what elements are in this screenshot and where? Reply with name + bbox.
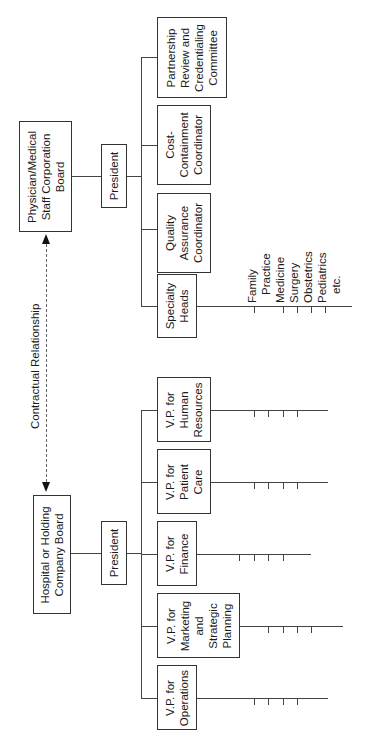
connector-line (72, 176, 101, 177)
tick (311, 626, 312, 633)
tick (254, 410, 255, 417)
vp-finance-box: V.P. for Finance (157, 521, 197, 586)
tick (268, 410, 269, 417)
hospital-president-box: President (101, 521, 127, 585)
quality-assurance-label: Quality Assurance Coordinator (163, 203, 205, 263)
hospital-board-label: Hospital or Holding Company Board (38, 506, 66, 603)
connector-line (127, 553, 142, 554)
cost-containment-label: Cost- Containment Coordinator (163, 112, 205, 177)
hospital-president-label: President (107, 529, 121, 578)
partnership-committee-box: Partnership Review and Credentialing Com… (157, 17, 227, 98)
tick (254, 306, 255, 313)
specialty-etc: etc. (329, 275, 343, 294)
vp-patient-care-box: V.P. for Patient Care (157, 449, 211, 514)
arrow-up-icon (42, 234, 50, 244)
vp-line (197, 698, 328, 699)
tick (297, 698, 298, 705)
physician-spine-line (141, 57, 142, 306)
connector-line (141, 306, 157, 307)
specialty-obstetrics: Obstetrics (301, 251, 315, 303)
physician-board-label: Physician/Medical Staff Corporation Boar… (25, 130, 67, 222)
connector-line (141, 626, 157, 627)
hospital-board-box: Hospital or Holding Company Board (33, 495, 71, 614)
vp-line (211, 482, 328, 483)
tick (254, 482, 255, 489)
connector-line (127, 176, 142, 177)
tick (239, 554, 240, 561)
tick (297, 306, 298, 313)
connector-line (141, 698, 157, 699)
specialty-pediatrics: Pediatrics (315, 253, 329, 304)
vp-marketing-box: V.P. for Marketing and Strategic Plannin… (157, 593, 240, 658)
tick (268, 626, 269, 633)
vp-operations-box: V.P. for Operations (157, 665, 197, 730)
contractual-relationship-label: Contractual Relationship (28, 304, 42, 429)
tick (283, 482, 284, 489)
vp-line (211, 410, 328, 411)
connector-line (141, 145, 157, 146)
physician-board-box: Physician/Medical Staff Corporation Boar… (19, 121, 72, 232)
arrow-down-icon (42, 482, 50, 492)
vp-operations-label: V.P. for Operations (163, 669, 191, 725)
tick (297, 626, 298, 633)
connector-line (141, 482, 157, 483)
tick (283, 554, 284, 561)
specialty-family: Family (245, 269, 259, 303)
connector-line (141, 229, 157, 230)
tick (297, 482, 298, 489)
tick (297, 410, 298, 417)
tick (283, 698, 284, 705)
tick (311, 306, 312, 313)
tick (268, 554, 269, 561)
vp-patient-care-label: V.P. for Patient Care (163, 464, 205, 500)
physician-president-label: President (107, 152, 121, 201)
tick (254, 698, 255, 705)
tick (268, 482, 269, 489)
vp-finance-label: V.P. for Finance (163, 533, 191, 574)
vp-marketing-label: V.P. for Marketing and Strategic Plannin… (164, 600, 234, 651)
vp-line (240, 626, 343, 627)
vp-human-resources-box: V.P. for Human Resources (157, 377, 211, 442)
specialty-heads-label: Specialty Heads (163, 283, 191, 330)
tick (283, 306, 284, 313)
partnership-committee-label: Partnership Review and Credentialing Com… (164, 24, 220, 92)
connector-line (141, 554, 157, 555)
specialty-line (197, 306, 352, 307)
tick (283, 626, 284, 633)
specialty-surgery: Surgery (287, 263, 301, 303)
tick (325, 306, 326, 313)
connector-line (141, 410, 157, 411)
specialty-medicine: Medicine (273, 257, 287, 303)
quality-assurance-box: Quality Assurance Coordinator (157, 193, 211, 273)
connector-line (141, 57, 157, 58)
cost-containment-box: Cost- Containment Coordinator (157, 105, 211, 185)
physician-president-box: President (101, 144, 127, 208)
tick (268, 698, 269, 705)
tick (283, 410, 284, 417)
connector-line (71, 553, 101, 554)
specialty-heads-box: Specialty Heads (157, 274, 197, 338)
contractual-dashed-line (46, 244, 47, 482)
vp-human-resources-label: V.P. for Human Resources (163, 382, 205, 437)
tick (254, 554, 255, 561)
specialty-practice: Practice (259, 253, 273, 295)
